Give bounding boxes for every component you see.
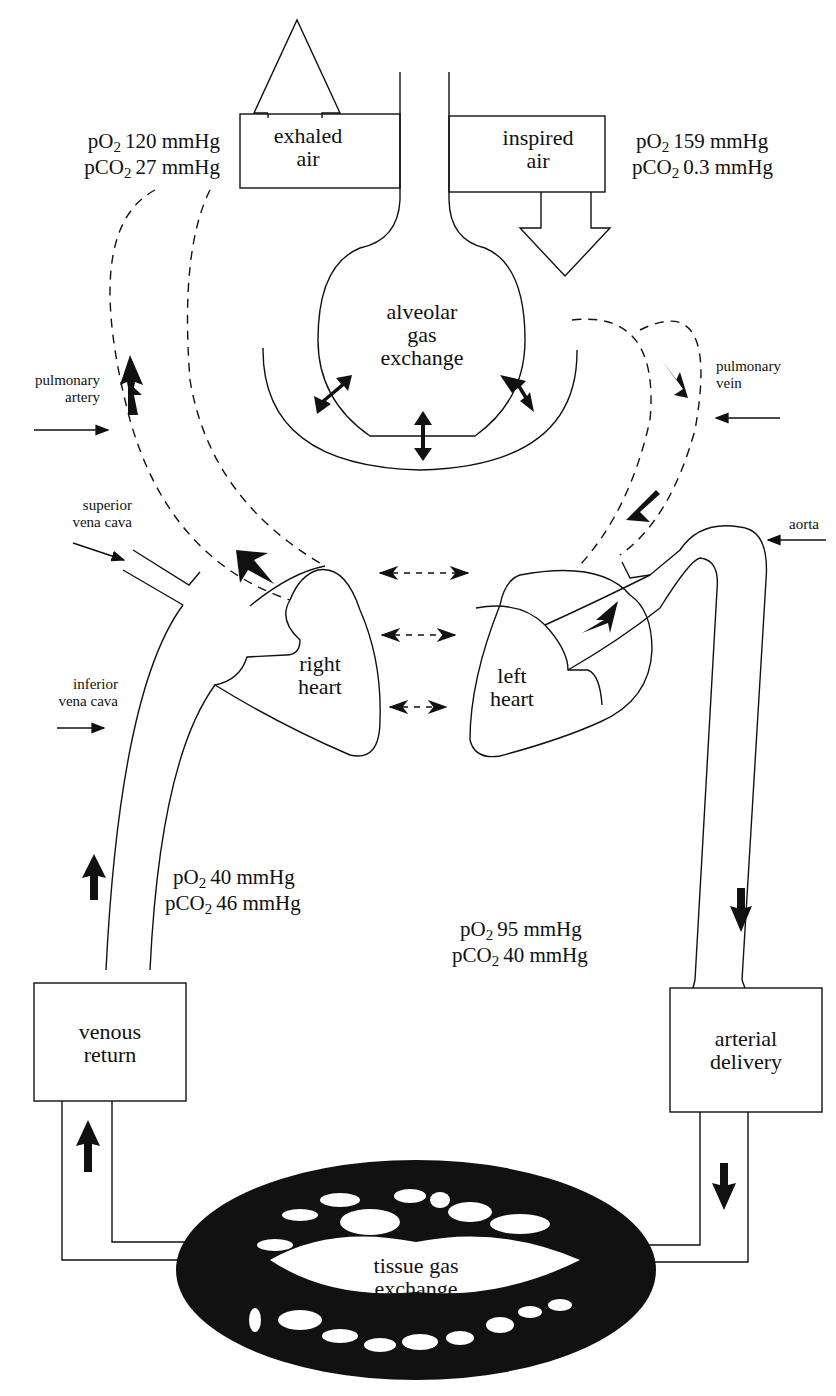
exchange-arrow-icon: [314, 375, 352, 414]
flow-arrow-down-left-icon: [626, 490, 660, 522]
circulation-diagram: [0, 0, 836, 1396]
exhaled-air-label: exhaledair: [248, 124, 368, 170]
venous-gas-values: pO240 mmHg pCO246 mmHg: [165, 866, 301, 918]
left-heart-label: leftheart: [462, 664, 562, 710]
flow-arrow-up-left-icon: [236, 550, 274, 584]
flow-arrow-up-icon: [120, 355, 143, 405]
pulmonary-vein-label: pulmonaryvein: [716, 358, 826, 393]
inhale-arrow-icon: [520, 192, 610, 276]
flow-arrow-up-icon: [82, 854, 106, 900]
alveolar-gas-exchange-label: alveolargasexchange: [362, 300, 482, 369]
inspired-air-label: inspiredair: [478, 126, 598, 172]
inferior-vena-cava-label: inferiorvena cava: [10, 676, 118, 711]
exhaled-gas-values: pO2120 mmHg pCO227 mmHg: [20, 130, 220, 182]
aorta-label: aorta: [774, 516, 834, 533]
flow-arrow-down-icon: [662, 360, 688, 398]
flow-arrow-up-icon: [76, 1120, 100, 1172]
venous-return-label: venousreturn: [34, 1020, 186, 1066]
pulmonary-artery-label: pulmonaryartery: [0, 372, 100, 407]
arterial-delivery-label: arterialdelivery: [670, 1027, 822, 1073]
flow-arrow-down-icon: [730, 888, 752, 932]
flow-arrow-down-icon: [712, 1163, 736, 1210]
exhale-arrow-icon: [254, 20, 340, 118]
tissue-gas-exchange-label: tissue gasexchange: [346, 1254, 486, 1300]
inspired-gas-values: pO2159 mmHg pCO20.3 mmHg: [632, 130, 773, 182]
arterial-gas-values: pO295 mmHg pCO240 mmHg: [452, 918, 588, 970]
superior-vena-cava-label: superiorvena cava: [20, 497, 132, 532]
right-heart-label: rightheart: [270, 652, 370, 698]
